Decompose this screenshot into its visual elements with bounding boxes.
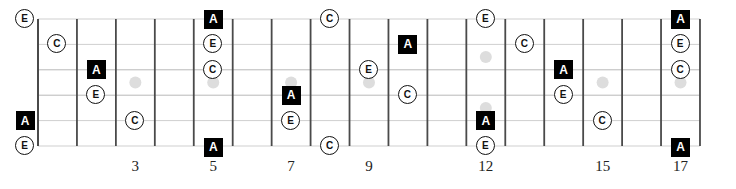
- fret-number-label: 5: [198, 158, 228, 175]
- note-marker: C: [320, 136, 339, 155]
- root-note-marker: A: [204, 10, 223, 29]
- note-marker: E: [359, 60, 378, 79]
- note-marker: C: [593, 111, 612, 130]
- root-note-marker: A: [204, 138, 223, 157]
- notes-layer: 3579121517EACEACEACEACEACEACEACEACEACEA: [0, 0, 736, 189]
- note-marker: E: [671, 34, 690, 53]
- note-marker: C: [47, 34, 66, 53]
- root-note-marker: A: [398, 35, 417, 54]
- root-note-marker: A: [476, 111, 495, 130]
- fret-number-label: 12: [471, 158, 501, 175]
- root-note-marker: A: [282, 86, 301, 105]
- note-marker: C: [203, 60, 222, 79]
- note-marker: C: [671, 60, 690, 79]
- fret-number-label: 3: [120, 158, 150, 175]
- note-marker: C: [515, 34, 534, 53]
- root-note-marker: A: [671, 138, 690, 157]
- fretboard-diagram: 3579121517EACEACEACEACEACEACEACEACEACEA: [0, 0, 736, 189]
- fret-number-label: 17: [666, 158, 696, 175]
- note-marker: E: [86, 85, 105, 104]
- note-marker: E: [15, 9, 34, 28]
- root-note-marker: A: [671, 10, 690, 29]
- fret-number-label: 9: [354, 158, 384, 175]
- note-marker: E: [203, 34, 222, 53]
- note-marker: E: [15, 136, 34, 155]
- note-marker: C: [398, 85, 417, 104]
- note-marker: C: [320, 9, 339, 28]
- fret-number-label: 7: [276, 158, 306, 175]
- note-marker: E: [476, 9, 495, 28]
- root-note-marker: A: [87, 60, 106, 79]
- root-note-marker: A: [16, 111, 35, 130]
- note-marker: E: [281, 111, 300, 130]
- root-note-marker: A: [554, 60, 573, 79]
- note-marker: E: [476, 136, 495, 155]
- fret-number-label: 15: [588, 158, 618, 175]
- note-marker: E: [554, 85, 573, 104]
- note-marker: C: [125, 111, 144, 130]
